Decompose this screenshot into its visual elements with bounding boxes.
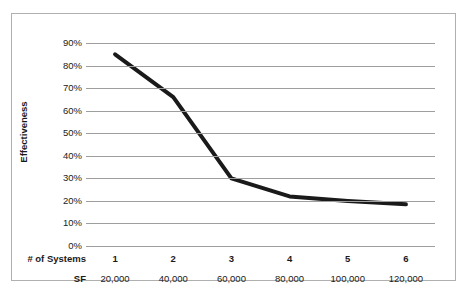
axis-row-systems: # of Systems 123456 <box>24 250 444 270</box>
y-axis-title: Effectiveness <box>18 62 34 202</box>
gridline <box>86 111 435 112</box>
y-axis-tick-labels: 90%80%70%60%50%40%30%20%10%0% <box>38 43 82 246</box>
gridline <box>86 178 435 179</box>
gridline <box>86 223 435 224</box>
effectiveness-line-series <box>86 43 435 246</box>
y-axis-tick-label: 80% <box>42 61 82 71</box>
y-axis-tick-label: 70% <box>42 83 82 93</box>
gridline <box>86 43 435 44</box>
axis-row-header-sf: SF <box>24 270 86 288</box>
y-axis-tick-label: 90% <box>42 38 82 48</box>
y-axis-tick-label: 10% <box>42 218 82 228</box>
gridline <box>86 133 435 134</box>
axis-row-header-systems: # of Systems <box>24 250 86 268</box>
gridline <box>86 88 435 89</box>
category-axis-table: # of Systems 123456 SF 20,00040,00060,00… <box>24 250 444 292</box>
y-axis-tick-label: 40% <box>42 151 82 161</box>
y-axis-tick-label: 20% <box>42 196 82 206</box>
x-axis-tick-label-sf: 120,000 <box>371 270 441 288</box>
gridline <box>86 156 435 157</box>
series-polyline <box>115 54 406 204</box>
plot-area <box>86 43 435 246</box>
axis-row-sf: SF 20,00040,00060,00080,000100,000120,00… <box>24 270 444 290</box>
y-axis-tick-label: 60% <box>42 106 82 116</box>
chart-frame: Effectiveness 90%80%70%60%50%40%30%20%10… <box>11 13 456 281</box>
y-axis-tick-label: 30% <box>42 173 82 183</box>
x-axis-tick-label-systems: 6 <box>371 250 441 268</box>
gridline <box>86 246 435 247</box>
y-axis-tick-label: 50% <box>42 128 82 138</box>
gridline <box>86 201 435 202</box>
gridline <box>86 66 435 67</box>
